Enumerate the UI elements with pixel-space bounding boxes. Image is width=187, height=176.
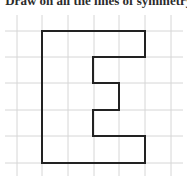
grid-lines	[5, 15, 183, 176]
grid-diagram	[0, 0, 187, 176]
